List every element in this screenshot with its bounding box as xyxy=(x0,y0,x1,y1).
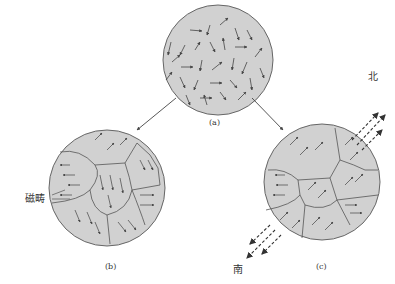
south-label: 南 xyxy=(233,261,243,276)
domain-label: 磁畴 xyxy=(25,190,45,205)
panel-b-label: (b) xyxy=(105,262,116,271)
arrow-a-to-c xyxy=(252,98,283,130)
panel-c-circle xyxy=(264,124,380,240)
panel-b-circle xyxy=(49,130,165,246)
arrow-a-to-b xyxy=(137,98,176,130)
north-label: 北 xyxy=(368,68,378,83)
panel-a-circle xyxy=(163,5,273,115)
magnetic-domain-diagram xyxy=(0,0,395,284)
north-field-arrows xyxy=(352,113,385,150)
south-field-arrows xyxy=(247,225,281,258)
panel-a-label: (a) xyxy=(209,118,220,127)
panel-c-label: (c) xyxy=(316,262,327,271)
